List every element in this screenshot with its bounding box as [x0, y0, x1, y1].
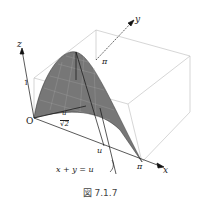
z-axis-label: z — [17, 40, 22, 49]
u-on-x-label: u — [97, 147, 102, 155]
half-u-numerator: u — [62, 110, 67, 117]
surface-mesh — [34, 52, 142, 162]
x-axis-label: x — [163, 166, 168, 175]
half-u-denominator: √2 — [60, 120, 69, 128]
surface-diagram — [0, 0, 200, 203]
y-axis-label: y — [135, 15, 140, 24]
z-tick-1: 1 — [24, 80, 28, 87]
origin-label: O — [26, 117, 33, 126]
figure-caption: 図 7.1.7 — [0, 186, 200, 199]
line-equation-label: x + y = u — [56, 166, 94, 174]
y-tick-pi: π — [102, 58, 107, 66]
x-tick-pi: π — [137, 163, 142, 171]
